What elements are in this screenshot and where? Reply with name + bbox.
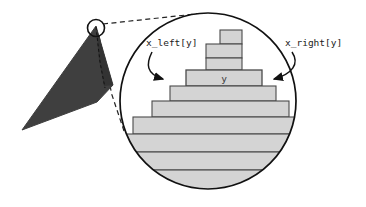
diagram-svg: y x_left[y] x_right[y] [0,0,366,207]
table-row [133,117,296,134]
table-row [112,170,304,194]
table-row [152,101,289,117]
magnifier-contents: y [112,10,304,194]
figure-canvas: y x_left[y] x_right[y] [0,0,366,207]
x-left-label: x_left[y] [146,37,197,48]
table-row [170,86,276,101]
table-row [206,44,242,58]
table-row [206,58,242,70]
row-label-y: y [221,73,227,84]
x-right-label: x_right[y] [285,37,342,48]
table-row [115,134,301,152]
dark-arrow-polygon [22,26,113,130]
table-row [220,30,242,44]
table-row [112,152,304,170]
